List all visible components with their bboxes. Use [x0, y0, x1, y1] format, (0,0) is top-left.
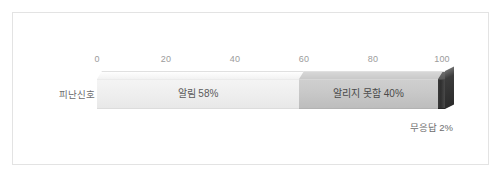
x-axis-tick-0: 0: [82, 54, 112, 64]
category-axis-label: 피난신호: [29, 87, 95, 101]
bar-segment-notified[interactable]: 알림 58%: [97, 79, 299, 109]
bar-segment-not-notified[interactable]: 알리지 못함 40%: [299, 79, 438, 109]
chart-frame: 0 20 40 60 80 100 피난신호 알림 58% 알리지 못함 40%: [12, 12, 489, 165]
stacked-bar: 알림 58% 알리지 못함 40%: [97, 71, 445, 117]
bar-segment-no-response-callout: 무응답 2%: [343, 120, 453, 134]
bar-segment-notified-label: 알림 58%: [178, 89, 219, 99]
x-axis-tick-80: 80: [358, 54, 388, 64]
x-axis-tick-20: 20: [151, 54, 181, 64]
bar-top-face-not-notified: [299, 71, 443, 79]
bar-segment-not-notified-label: 알리지 못함 40%: [333, 89, 404, 99]
x-axis-tick-40: 40: [220, 54, 250, 64]
chart-plot-area: 0 20 40 60 80 100 피난신호 알림 58% 알리지 못함 40%: [13, 13, 490, 166]
bar-segment-no-response[interactable]: [438, 79, 445, 109]
bar-end-cap: [445, 67, 454, 109]
x-axis-tick-100: 100: [427, 54, 457, 64]
bar-top-face-notified: [97, 71, 304, 79]
x-axis-tick-60: 60: [289, 54, 319, 64]
